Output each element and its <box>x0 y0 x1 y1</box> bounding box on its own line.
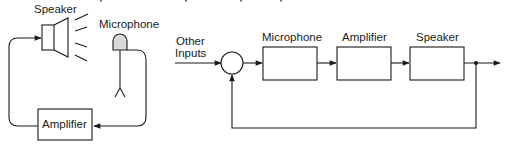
block-amplifier <box>337 47 391 80</box>
speaker-label: Speaker <box>34 3 77 16</box>
microphone-label: Microphone <box>99 18 159 31</box>
microphone-icon <box>113 34 127 97</box>
other-inputs-label-line2: Inputs <box>175 47 206 60</box>
speaker-icon <box>42 18 68 57</box>
amplifier-label: Amplifier <box>42 118 87 131</box>
block-amplifier-label: Amplifier <box>342 31 387 44</box>
summing-junction <box>221 52 243 74</box>
block-speaker-label: Speaker <box>416 31 459 44</box>
block-speaker <box>410 47 464 80</box>
clipped-text-remnants <box>100 0 282 2</box>
sound-waves-icon <box>75 14 88 61</box>
block-microphone-label: Microphone <box>262 31 322 44</box>
block-microphone <box>263 47 317 80</box>
amplifier-to-speaker-wire <box>9 38 41 126</box>
